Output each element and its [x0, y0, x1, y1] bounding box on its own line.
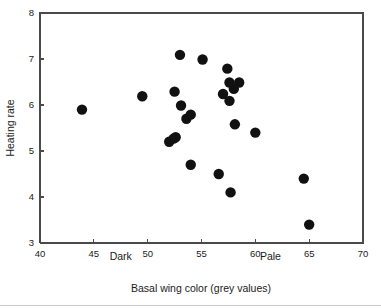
y-tick-label: 6	[29, 99, 34, 110]
data-point	[175, 50, 185, 60]
y-tick-label: 5	[29, 145, 34, 156]
pale-annotation-label: Pale	[260, 250, 281, 262]
data-point	[137, 91, 147, 101]
y-tick-label: 4	[29, 191, 34, 202]
plot-frame	[40, 13, 363, 243]
scatter-plot-figure: 345678 40455055606570 Heating rate Dark …	[0, 0, 381, 308]
y-axis-ticks: 345678	[29, 7, 44, 248]
x-axis-title: Basal wing color (grey values)	[131, 282, 271, 294]
dark-annotation-label: Dark	[110, 250, 133, 262]
x-tick-label: 55	[196, 248, 207, 259]
data-point	[225, 187, 235, 197]
data-point	[250, 127, 260, 137]
data-point	[77, 104, 87, 114]
data-point	[230, 119, 240, 129]
y-tick-label: 7	[29, 53, 34, 64]
x-tick-label: 50	[142, 248, 153, 259]
y-tick-label: 8	[29, 7, 34, 18]
data-point	[170, 132, 180, 142]
data-point	[186, 160, 196, 170]
data-point	[304, 219, 314, 229]
data-point	[214, 169, 224, 179]
data-points-group	[77, 50, 315, 230]
chart-canvas: 345678 40455055606570 Heating rate Dark …	[0, 0, 381, 308]
x-tick-label: 65	[304, 248, 315, 259]
axis-frame-path	[40, 13, 363, 243]
y-tick-label: 3	[29, 237, 34, 248]
data-point	[169, 86, 179, 96]
y-axis-title: Heating rate	[4, 99, 16, 156]
data-point	[299, 173, 309, 183]
data-point	[234, 77, 244, 87]
x-axis-ticks: 40455055606570	[35, 239, 369, 259]
data-point	[186, 109, 196, 119]
data-point	[176, 100, 186, 110]
data-point	[224, 96, 234, 106]
x-tick-label: 40	[35, 248, 46, 259]
x-tick-label: 45	[89, 248, 100, 259]
data-point	[222, 63, 232, 73]
x-tick-label: 70	[358, 248, 369, 259]
data-point	[197, 54, 207, 64]
